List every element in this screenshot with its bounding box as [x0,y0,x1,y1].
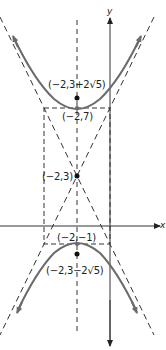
x-axis-label: x [160,220,165,230]
lower-branch-arrow-right [132,302,137,313]
vertex-top-label: (−2,7) [62,111,93,122]
lower-branch-arrow-left [17,302,22,313]
center-point [75,174,80,179]
focus-bottom-label: (−2,3−2√5) [46,265,104,276]
focus-bottom-point [75,252,80,257]
vertex-bottom-label: (−2,−1) [57,232,96,243]
center-label: (−2,3) [42,171,73,182]
focus-top-label: (−2,3+2√5) [48,79,106,90]
vertex-top-point [75,106,79,110]
hyperbola-diagram [0,0,166,350]
focus-top-point [75,96,80,101]
y-axis-label: y [107,6,112,16]
